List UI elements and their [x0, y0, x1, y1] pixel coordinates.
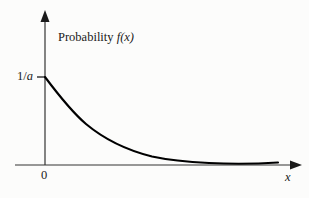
arrow-up-icon — [41, 10, 50, 22]
exponential-decay-curve — [45, 77, 278, 164]
arrow-right-icon — [290, 161, 302, 170]
y-axis-label-math: f(x) — [117, 30, 134, 44]
y-axis-label-text: Probability — [58, 30, 117, 44]
y-tick-label-prefix: 1/ — [17, 69, 27, 83]
probability-density-figure: Probability f(x) 1/a 0 x — [0, 0, 309, 198]
x-axis-label: x — [285, 171, 291, 184]
origin-label: 0 — [41, 169, 47, 182]
y-tick-label-math: a — [27, 69, 33, 83]
y-axis-label: Probability f(x) — [58, 31, 134, 44]
y-tick-label-1a: 1/a — [17, 70, 33, 83]
